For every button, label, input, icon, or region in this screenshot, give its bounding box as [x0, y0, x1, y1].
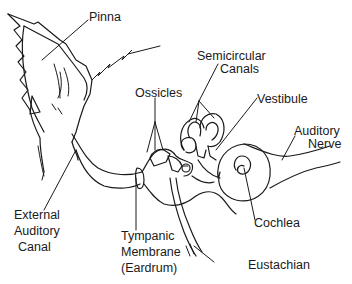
label-tympanic-membrane-line2: Membrane — [121, 245, 181, 259]
vestibule-shape — [192, 160, 220, 183]
label-semicircular-canals-line2: Canals — [220, 62, 259, 76]
label-external-auditory-canal-line3: Canal — [18, 240, 51, 254]
label-eustachian: Eustachian — [248, 258, 310, 272]
label-external-auditory-canal-line2: Auditory — [14, 224, 60, 238]
ear-drawing — [0, 0, 352, 284]
label-cochlea: Cochlea — [254, 216, 300, 230]
cochlea-shape — [218, 144, 271, 201]
label-pinna: Pinna — [89, 10, 121, 24]
ear-anatomy-diagram: Pinna Ossicles Semicircular Canals Vesti… — [0, 0, 352, 284]
label-ossicles: Ossicles — [135, 86, 182, 100]
label-tympanic-membrane-line3: (Eardrum) — [121, 261, 177, 275]
label-auditory-nerve-line2: Nerve — [308, 137, 341, 151]
label-tympanic-membrane-line1: Tympanic — [121, 229, 175, 243]
label-auditory-nerve-line1: Auditory — [294, 124, 340, 138]
label-vestibule: Vestibule — [257, 92, 308, 106]
label-external-auditory-canal-line1: External — [14, 208, 60, 222]
semicircular-canals-shape — [181, 114, 224, 160]
external-canal-shape — [72, 134, 142, 188]
label-semicircular-canals-line1: Semicircular — [197, 49, 266, 63]
